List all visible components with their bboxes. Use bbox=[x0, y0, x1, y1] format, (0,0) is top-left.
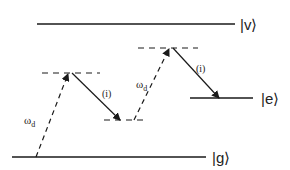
drive-label-1: ωd bbox=[24, 114, 35, 129]
interaction-label-1: (i) bbox=[102, 88, 111, 100]
ket-label-v: |v⟩ bbox=[240, 16, 257, 33]
drive-transition-1-arrow bbox=[36, 74, 68, 157]
interaction-label-2: (i) bbox=[196, 63, 205, 75]
ket-label-e: |e⟩ bbox=[261, 90, 279, 107]
diagram-svg: |v⟩ |e⟩ |g⟩ ωd (i) ωd (i) bbox=[0, 0, 290, 170]
energy-level-diagram: |v⟩ |e⟩ |g⟩ ωd (i) ωd (i) bbox=[0, 0, 290, 170]
drive-label-2: ωd bbox=[136, 78, 147, 93]
ket-label-g: |g⟩ bbox=[212, 149, 230, 166]
interaction-transition-1-arrow bbox=[72, 73, 120, 120]
